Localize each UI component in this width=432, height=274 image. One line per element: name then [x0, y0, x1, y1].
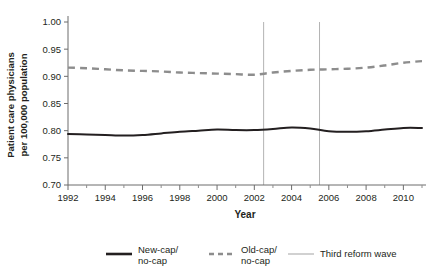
x-tick-label: 2006	[318, 192, 339, 203]
x-tick-label: 2002	[244, 192, 265, 203]
x-axis-ticks: 1992199419961998200020022004200620082010	[57, 185, 422, 203]
x-tick-label: 2010	[393, 192, 414, 203]
legend-label: Old-cap/	[241, 244, 277, 255]
x-tick-label: 1998	[169, 192, 190, 203]
series-line-new-cap	[68, 127, 422, 135]
chart-series	[68, 61, 422, 135]
legend-item: New-cap/no-cap	[106, 244, 178, 266]
y-tick-label: 0.75	[43, 152, 62, 163]
legend-label-line2: no-cap	[241, 255, 270, 266]
x-tick-label: 1996	[132, 192, 153, 203]
series-line-old-cap	[68, 61, 422, 75]
line-chart: 0.700.750.800.850.900.951.00 19921994199…	[0, 0, 432, 274]
chart-legend: New-cap/no-capOld-cap/no-capThird reform…	[106, 244, 397, 266]
x-tick-label: 2004	[281, 192, 302, 203]
y-tick-label: 0.85	[43, 98, 62, 109]
legend-item: Old-cap/no-cap	[209, 244, 277, 266]
y-axis-ticks: 0.700.750.800.850.900.951.00	[43, 16, 69, 190]
legend-item: Third reform wave	[288, 248, 397, 259]
x-tick-label: 2008	[356, 192, 377, 203]
reform-wave-lines	[264, 22, 320, 185]
y-axis-label-line1: Patient care physicians	[5, 52, 16, 158]
y-tick-label: 1.00	[43, 16, 62, 27]
legend-label-line2: no-cap	[138, 255, 167, 266]
x-tick-label: 1994	[95, 192, 116, 203]
chart-axes	[68, 16, 426, 185]
y-tick-label: 0.70	[43, 179, 62, 190]
x-tick-label: 2000	[206, 192, 227, 203]
y-tick-label: 0.95	[43, 44, 62, 55]
x-axis-label: Year	[234, 209, 255, 220]
chart-figure: 0.700.750.800.850.900.951.00 19921994199…	[0, 0, 432, 274]
y-tick-label: 0.80	[43, 125, 62, 136]
legend-label: New-cap/	[138, 244, 178, 255]
x-tick-label: 1992	[57, 192, 78, 203]
y-axis-label-line2: per 100,000 population	[18, 53, 29, 156]
legend-label: Third reform wave	[320, 248, 397, 259]
y-tick-label: 0.90	[43, 71, 62, 82]
